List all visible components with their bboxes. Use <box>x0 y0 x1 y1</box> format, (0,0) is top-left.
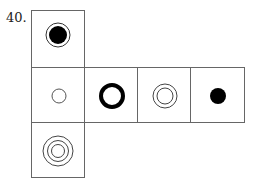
ring-filled-circle-icon <box>32 11 86 69</box>
face-left <box>31 67 85 123</box>
filled-dot-icon <box>191 68 246 124</box>
face-right <box>190 67 245 123</box>
thick-ring-icon <box>85 68 139 124</box>
thin-circle-icon <box>32 68 86 124</box>
face-center-right <box>137 67 191 123</box>
face-bottom <box>31 122 85 178</box>
triple-circle-icon <box>32 123 86 179</box>
face-top <box>31 10 85 68</box>
problem-number: 40. <box>6 10 27 25</box>
face-center <box>84 67 138 123</box>
double-circle-icon <box>138 68 192 124</box>
